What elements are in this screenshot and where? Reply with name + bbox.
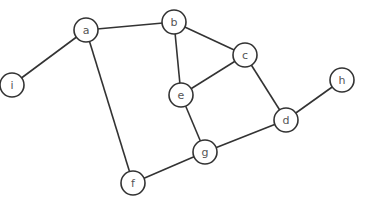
edge-a-f bbox=[86, 30, 133, 183]
node-e: e bbox=[169, 83, 193, 107]
node-b: b bbox=[162, 10, 186, 34]
nodes: abcdefghi bbox=[0, 10, 354, 195]
node-c: c bbox=[233, 43, 257, 67]
node-g: g bbox=[193, 140, 217, 164]
node-label: d bbox=[283, 114, 290, 127]
node-label: e bbox=[178, 89, 185, 102]
node-a: a bbox=[74, 18, 98, 42]
node-label: g bbox=[202, 146, 209, 159]
node-label: h bbox=[339, 74, 346, 87]
node-label: c bbox=[242, 49, 248, 62]
graph-diagram: abcdefghi bbox=[0, 0, 371, 210]
node-d: d bbox=[274, 108, 298, 132]
edge-d-g bbox=[205, 120, 286, 152]
node-i: i bbox=[0, 73, 24, 97]
node-label: b bbox=[171, 16, 178, 29]
node-label: i bbox=[10, 79, 13, 92]
node-f: f bbox=[121, 171, 145, 195]
node-h: h bbox=[330, 68, 354, 92]
node-label: a bbox=[83, 24, 90, 37]
edge-a-b bbox=[86, 22, 174, 30]
edge-a-i bbox=[12, 30, 86, 85]
